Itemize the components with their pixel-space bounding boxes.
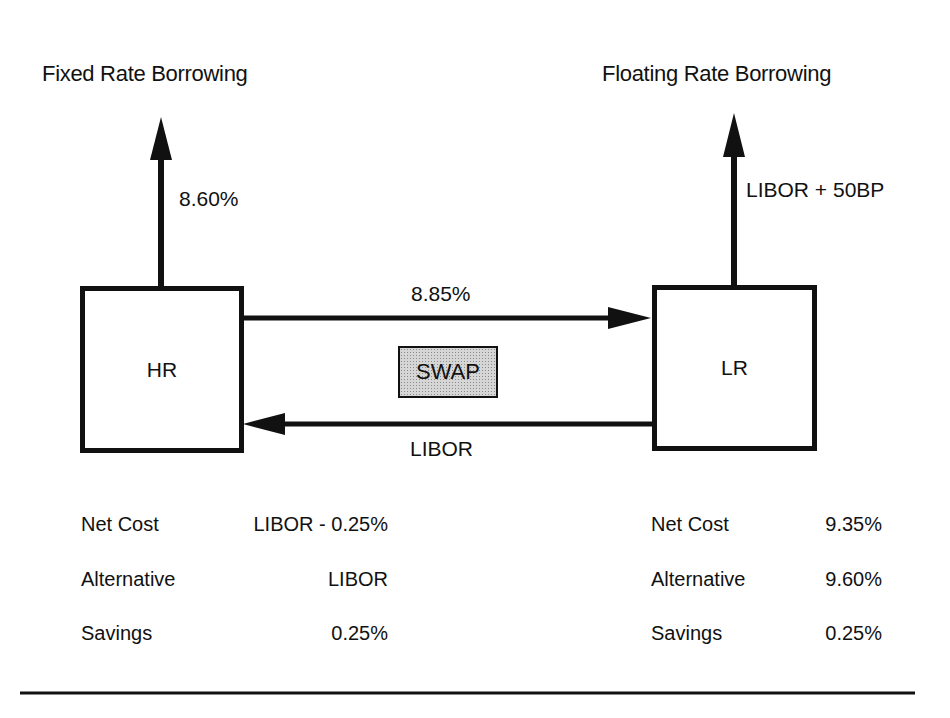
hr-party-label: HR bbox=[85, 358, 239, 382]
lr-party-box: LR bbox=[652, 285, 817, 451]
arrow-up-icon bbox=[723, 113, 745, 287]
hr-savings-value: 0.25% bbox=[200, 622, 388, 645]
swap-box: SWAP bbox=[398, 346, 498, 398]
swap-label: SWAP bbox=[416, 359, 480, 385]
hr-alternative-label: Alternative bbox=[81, 568, 176, 591]
fixed-rate-heading: Fixed Rate Borrowing bbox=[42, 61, 248, 87]
hr-savings-label: Savings bbox=[81, 622, 152, 645]
lr-savings-label: Savings bbox=[651, 622, 722, 645]
arrow-right-icon bbox=[243, 307, 651, 329]
hr-net-cost-label: Net Cost bbox=[81, 513, 159, 536]
hr-alternative-value: LIBOR bbox=[200, 568, 388, 591]
floating-rate-heading: Floating Rate Borrowing bbox=[602, 61, 831, 87]
lr-net-cost-label: Net Cost bbox=[651, 513, 729, 536]
floating-borrowing-rate: LIBOR + 50BP bbox=[746, 178, 884, 202]
lr-party-label: LR bbox=[657, 356, 812, 380]
floating-swap-flow-label: LIBOR bbox=[410, 437, 473, 461]
lr-alternative-value: 9.60% bbox=[780, 568, 882, 591]
hr-party-box: HR bbox=[80, 286, 244, 453]
fixed-swap-flow-label: 8.85% bbox=[411, 282, 471, 306]
arrow-up-icon bbox=[150, 117, 172, 288]
fixed-borrowing-rate: 8.60% bbox=[179, 187, 239, 211]
lr-net-cost-value: 9.35% bbox=[780, 513, 882, 536]
lr-savings-value: 0.25% bbox=[780, 622, 882, 645]
lr-alternative-label: Alternative bbox=[651, 568, 746, 591]
hr-net-cost-value: LIBOR - 0.25% bbox=[200, 513, 388, 536]
arrow-left-icon bbox=[243, 413, 652, 435]
